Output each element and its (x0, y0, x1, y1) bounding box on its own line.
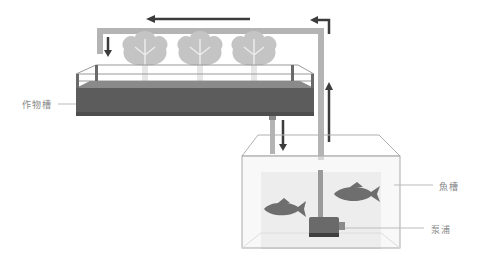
arrow-up-icon (325, 82, 333, 142)
pump-label: 泵浦 (431, 223, 451, 236)
fish-tank-label: 魚槽 (439, 180, 459, 193)
arrow-left-icon (146, 15, 250, 23)
crop-tank-label: 作物槽 (22, 98, 52, 111)
lettuce-icon (231, 31, 276, 83)
arrow-down-icon (104, 37, 112, 57)
lettuce-icon (122, 31, 167, 83)
aquaponics-diagram (0, 0, 483, 263)
lettuce-plants (122, 31, 276, 83)
lettuce-icon (177, 31, 222, 83)
crop-tank (76, 65, 314, 116)
